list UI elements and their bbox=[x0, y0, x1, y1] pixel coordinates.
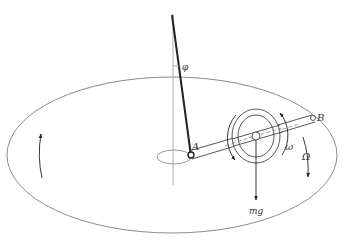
point-a-label: A bbox=[191, 141, 199, 152]
suspension-string bbox=[172, 15, 191, 156]
pivot-ellipse bbox=[157, 150, 191, 164]
joint-a bbox=[188, 152, 194, 158]
joint-b bbox=[311, 116, 316, 121]
disk-hub bbox=[252, 132, 260, 140]
physics-diagram: φ A B ω mg Ω bbox=[0, 0, 345, 245]
platform-ellipse bbox=[7, 77, 337, 233]
weight-label: mg bbox=[249, 206, 264, 216]
point-b-label: B bbox=[316, 112, 324, 123]
platform-rotation-arrow-left bbox=[39, 134, 42, 178]
omega-small-label: ω bbox=[285, 141, 293, 152]
omega-large-label: Ω bbox=[301, 151, 310, 162]
phi-label: φ bbox=[182, 62, 189, 72]
